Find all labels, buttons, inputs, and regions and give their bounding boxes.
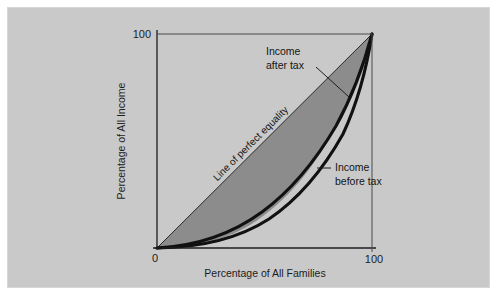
annotation-income-after-tax-line1: Income xyxy=(266,45,301,57)
y-axis-title: Percentage of All Income xyxy=(115,82,127,199)
x-axis-title: Percentage of All Families xyxy=(204,267,325,279)
y-axis-tick-100: 100 xyxy=(133,28,151,40)
annotation-income-after-tax-line2: after tax xyxy=(266,59,305,71)
annotation-income-before-tax-line2: before tax xyxy=(335,175,382,187)
x-axis-tick-0: 0 xyxy=(152,252,158,264)
lorenz-curve-figure: 100 0 100 Percentage of All Income Perce… xyxy=(0,0,497,295)
x-axis-tick-100: 100 xyxy=(365,253,383,265)
chart-svg: 100 0 100 Percentage of All Income Perce… xyxy=(0,0,497,295)
annotation-income-before-tax-line1: Income xyxy=(335,161,370,173)
